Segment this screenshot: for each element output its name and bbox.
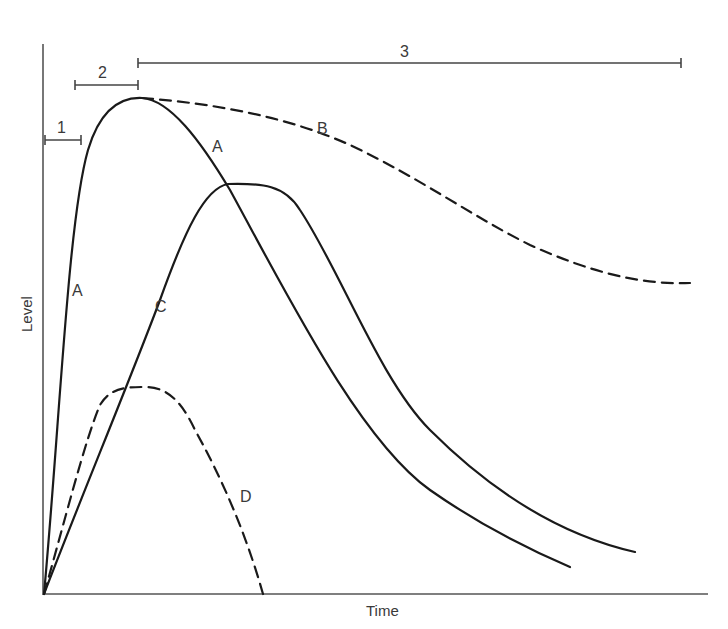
bracket-3: 3 bbox=[138, 43, 681, 68]
curve-b bbox=[142, 98, 690, 283]
time-level-diagram: 1 2 3 A A B C D Time Level bbox=[0, 0, 728, 629]
curve-d-label: D bbox=[240, 488, 252, 505]
bracket-2: 2 bbox=[75, 64, 138, 90]
bracket-3-label: 3 bbox=[400, 43, 409, 60]
curve-a-label-lower: A bbox=[72, 282, 83, 299]
y-axis-label: Level bbox=[18, 296, 35, 332]
bracket-2-label: 2 bbox=[98, 64, 107, 81]
curve-c-label: C bbox=[155, 298, 167, 315]
bracket-1-label: 1 bbox=[57, 119, 66, 136]
curve-d bbox=[44, 387, 263, 594]
curve-a bbox=[44, 98, 570, 594]
curve-a-label-upper: A bbox=[212, 138, 223, 155]
curve-c bbox=[44, 184, 635, 594]
curve-b-label: B bbox=[317, 120, 328, 137]
x-axis-label: Time bbox=[366, 602, 399, 619]
bracket-1: 1 bbox=[45, 119, 81, 145]
